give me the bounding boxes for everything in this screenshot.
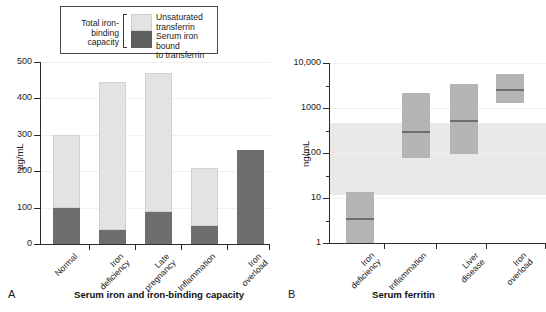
y-tick-label: 400 bbox=[0, 93, 32, 102]
bar-segment-unsaturated bbox=[99, 82, 126, 230]
gridline bbox=[330, 63, 546, 64]
panel-caption-b: Serum ferritin bbox=[372, 289, 435, 300]
x-axis-line bbox=[329, 243, 546, 244]
box-median bbox=[346, 218, 374, 220]
box-median bbox=[402, 131, 430, 133]
y-minor-tick bbox=[326, 221, 330, 222]
box-liver-disease bbox=[450, 84, 478, 154]
y-tick bbox=[34, 135, 41, 136]
panel-a-serum-iron: Total iron- binding capacity Unsaturated… bbox=[0, 0, 280, 312]
y-minor-tick bbox=[326, 176, 330, 177]
y-tick-label: 1000 bbox=[280, 103, 321, 112]
y-tick bbox=[323, 243, 330, 244]
x-tick bbox=[227, 244, 228, 250]
box-median bbox=[450, 120, 478, 122]
panel-b-serum-ferritin: 10,000 1000 100 10 1 ng/mL Iron deficien… bbox=[280, 0, 546, 312]
y-tick bbox=[34, 98, 41, 99]
y-minor-tick bbox=[326, 131, 330, 132]
bar-segment-unsaturated bbox=[145, 73, 172, 212]
x-tick bbox=[384, 243, 385, 249]
box-iron-overload bbox=[496, 74, 524, 102]
y-tick bbox=[34, 208, 41, 209]
bar-normal bbox=[53, 135, 80, 244]
y-axis-title: µg/mL bbox=[14, 143, 25, 170]
y-tick-label: 10 bbox=[280, 193, 321, 202]
bar-iron-overload bbox=[237, 150, 264, 244]
panel-letter-b: B bbox=[288, 288, 295, 300]
figure: Total iron- binding capacity Unsaturated… bbox=[0, 0, 546, 312]
x-tick bbox=[486, 243, 487, 249]
y-tick-label: 300 bbox=[0, 130, 32, 139]
y-tick-label: 500 bbox=[0, 57, 32, 66]
bar-segment-unsaturated bbox=[191, 168, 218, 226]
y-tick bbox=[323, 153, 330, 154]
panel-letter-a: A bbox=[8, 288, 15, 300]
gridline bbox=[41, 62, 270, 63]
box-range bbox=[450, 84, 478, 154]
box-inflammation bbox=[402, 93, 430, 158]
y-tick-label: 1 bbox=[280, 238, 321, 247]
bar-iron-deficiency bbox=[99, 82, 126, 244]
y-axis-title: ng/mL bbox=[300, 141, 311, 167]
bar-segment-serum-iron bbox=[99, 230, 126, 244]
x-tick bbox=[135, 244, 136, 250]
y-tick bbox=[34, 171, 41, 172]
y-tick bbox=[34, 62, 41, 63]
x-tick bbox=[269, 244, 270, 250]
chart-b-plot: 10,000 1000 100 10 1 ng/mL Iron deficien… bbox=[280, 0, 546, 312]
panel-caption-a: Serum iron and iron-binding capacity bbox=[74, 289, 244, 300]
bar-segment-serum-iron bbox=[53, 208, 80, 244]
y-tick bbox=[323, 63, 330, 64]
bar-segment-unsaturated bbox=[53, 135, 80, 208]
box-range bbox=[402, 93, 430, 158]
box-median bbox=[496, 89, 524, 91]
y-tick-label: 10,000 bbox=[280, 58, 321, 67]
box-iron-deficiency bbox=[346, 192, 374, 243]
x-axis-line bbox=[40, 244, 270, 245]
y-tick-label: 0 bbox=[0, 239, 32, 248]
gridline bbox=[330, 153, 546, 154]
y-tick bbox=[34, 244, 41, 245]
bar-segment-serum-iron bbox=[237, 150, 264, 244]
y-minor-tick bbox=[326, 86, 330, 87]
gridline bbox=[330, 108, 546, 109]
chart-a-plot: 500 400 300 200 100 0 µg/mL bbox=[0, 0, 280, 312]
y-tick bbox=[323, 198, 330, 199]
y-tick bbox=[323, 108, 330, 109]
y-tick-label: 100 bbox=[0, 203, 32, 212]
x-tick bbox=[181, 244, 182, 250]
x-tick bbox=[436, 243, 437, 249]
bar-late-pregnancy bbox=[145, 73, 172, 244]
x-tick bbox=[89, 244, 90, 250]
reference-band-normal-range bbox=[330, 123, 546, 195]
y-axis-line bbox=[40, 62, 41, 245]
bar-segment-serum-iron bbox=[145, 212, 172, 244]
bar-segment-serum-iron bbox=[191, 226, 218, 244]
bar-inflammation bbox=[191, 168, 218, 244]
